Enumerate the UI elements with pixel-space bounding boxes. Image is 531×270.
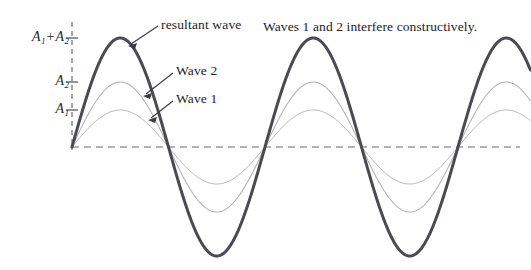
axis-label-a2: A2 [56,73,69,89]
callout-resultant-wave: resultant wave [161,17,241,33]
axis-label-a1-text: A1 [56,101,69,116]
wave-diagram-svg [0,0,531,270]
callout-wave-2: Wave 2 [176,63,217,79]
leader-resultant [128,26,158,49]
figure-caption: Waves 1 and 2 interfere constructively. [263,19,477,35]
axis-label-a1-plus-a2: A1+A2 [32,29,69,45]
wave-interference-figure: A1+A2 A2 A1 resultant wave Wave 2 Wave 1… [0,0,531,270]
callout-wave-1: Wave 1 [176,91,217,107]
axis-label-a1-plus-a2-text: A1+A2 [32,29,69,44]
axis-label-a1: A1 [56,101,69,117]
axis-label-a2-text: A2 [56,73,69,88]
